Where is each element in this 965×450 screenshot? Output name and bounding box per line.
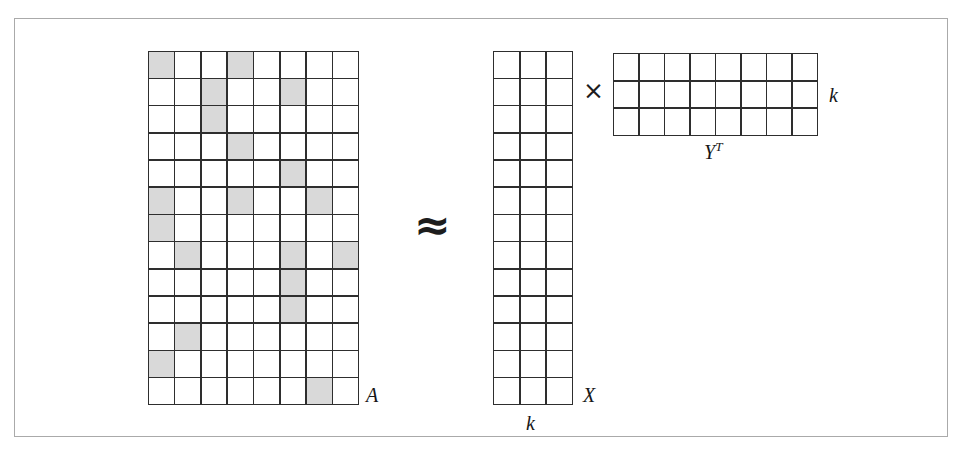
matrix-cell-shaded: [281, 270, 306, 296]
matrix-factorization-figure: A ≈ X k × YT k: [0, 0, 965, 450]
matrix-cell-empty: [333, 297, 358, 323]
matrix-cell-empty: [665, 54, 689, 80]
matrix-cell-empty: [254, 52, 279, 78]
matrix-cell-empty: [307, 242, 332, 268]
matrix-cell-empty: [333, 188, 358, 214]
matrix-cell-empty: [547, 79, 572, 105]
matrix-cell-empty: [254, 188, 279, 214]
matrix-cell-empty: [521, 161, 546, 187]
matrix-cell-shaded: [281, 79, 306, 105]
matrix-cell-empty: [254, 79, 279, 105]
matrix-cell-empty: [333, 215, 358, 241]
matrix-cell-empty: [254, 351, 279, 377]
matrix-cell-empty: [742, 54, 766, 80]
matrix-cell-empty: [228, 297, 253, 323]
matrix-cell-empty: [333, 324, 358, 350]
matrix-cell-empty: [307, 270, 332, 296]
matrix-cell-empty: [547, 52, 572, 78]
matrix-cell-empty: [149, 378, 174, 404]
figure-frame: A ≈ X k × YT k: [14, 18, 948, 437]
matrix-cell-shaded: [228, 52, 253, 78]
matrix-cell-empty: [333, 378, 358, 404]
matrix-yt-label: YT: [704, 140, 722, 162]
matrix-cell-empty: [494, 297, 519, 323]
matrix-cell-empty: [547, 134, 572, 160]
matrix-cell-empty: [254, 161, 279, 187]
matrix-cell-empty: [333, 351, 358, 377]
matrix-cell-empty: [254, 324, 279, 350]
matrix-a-label: A: [366, 385, 378, 405]
matrix-cell-empty: [793, 82, 817, 108]
matrix-cell-empty: [614, 82, 638, 108]
matrix-cell-empty: [281, 106, 306, 132]
matrix-cell-empty: [521, 52, 546, 78]
matrix-cell-empty: [202, 270, 227, 296]
matrix-cell-empty: [149, 242, 174, 268]
matrix-cell-shaded: [149, 215, 174, 241]
matrix-cell-empty: [175, 215, 200, 241]
matrix-cell-empty: [228, 79, 253, 105]
matrix-cell-empty: [175, 188, 200, 214]
matrix-cell-empty: [614, 54, 638, 80]
matrix-cell-empty: [202, 161, 227, 187]
matrix-cell-shaded: [333, 242, 358, 268]
matrix-cell-empty: [149, 134, 174, 160]
matrix-cell-empty: [254, 242, 279, 268]
approximately-equal-icon: ≈: [414, 203, 451, 247]
matrix-cell-empty: [547, 188, 572, 214]
matrix-cell-empty: [307, 215, 332, 241]
matrix-x-label: X: [583, 385, 595, 405]
matrix-cell-empty: [521, 79, 546, 105]
matrix-cell-empty: [691, 82, 715, 108]
matrix-cell-empty: [640, 54, 664, 80]
matrix-cell-empty: [547, 161, 572, 187]
matrix-cell-shaded: [175, 324, 200, 350]
matrix-cell-empty: [175, 52, 200, 78]
matrix-cell-empty: [175, 79, 200, 105]
matrix-cell-empty: [228, 378, 253, 404]
matrix-cell-shaded: [281, 297, 306, 323]
matrix-cell-empty: [333, 52, 358, 78]
matrix-cell-empty: [228, 324, 253, 350]
matrix-cell-empty: [228, 106, 253, 132]
matrix-cell-empty: [307, 134, 332, 160]
matrix-cell-empty: [640, 82, 664, 108]
matrix-cell-empty: [175, 134, 200, 160]
matrix-cell-empty: [333, 270, 358, 296]
matrix-cell-empty: [307, 106, 332, 132]
matrix-cell-empty: [175, 270, 200, 296]
matrix-cell-empty: [202, 134, 227, 160]
matrix-cell-empty: [149, 161, 174, 187]
matrix-cell-empty: [494, 378, 519, 404]
matrix-cell-empty: [691, 109, 715, 135]
matrix-cell-empty: [547, 270, 572, 296]
matrix-cell-empty: [228, 161, 253, 187]
matrix-cell-empty: [281, 351, 306, 377]
matrix-cell-shaded: [281, 242, 306, 268]
matrix-cell-empty: [521, 188, 546, 214]
matrix-cell-empty: [149, 297, 174, 323]
matrix-cell-empty: [333, 106, 358, 132]
matrix-cell-empty: [281, 378, 306, 404]
matrix-cell-shaded: [149, 351, 174, 377]
matrix-cell-empty: [202, 324, 227, 350]
matrix-cell-empty: [149, 79, 174, 105]
matrix-cell-empty: [547, 242, 572, 268]
matrix-cell-empty: [665, 82, 689, 108]
matrix-cell-empty: [254, 297, 279, 323]
matrix-cell-empty: [175, 106, 200, 132]
matrix-cell-empty: [307, 324, 332, 350]
matrix-cell-empty: [614, 109, 638, 135]
matrix-yt-label-base: Y: [704, 141, 715, 163]
matrix-cell-empty: [494, 52, 519, 78]
matrix-cell-empty: [202, 297, 227, 323]
matrix-cell-empty: [521, 106, 546, 132]
matrix-a-grid: [148, 51, 359, 405]
matrix-cell-empty: [254, 106, 279, 132]
matrix-cell-shaded: [202, 79, 227, 105]
matrix-cell-empty: [202, 351, 227, 377]
matrix-cell-empty: [691, 54, 715, 80]
matrix-cell-empty: [521, 324, 546, 350]
matrix-cell-shaded: [175, 242, 200, 268]
matrix-cell-empty: [333, 134, 358, 160]
